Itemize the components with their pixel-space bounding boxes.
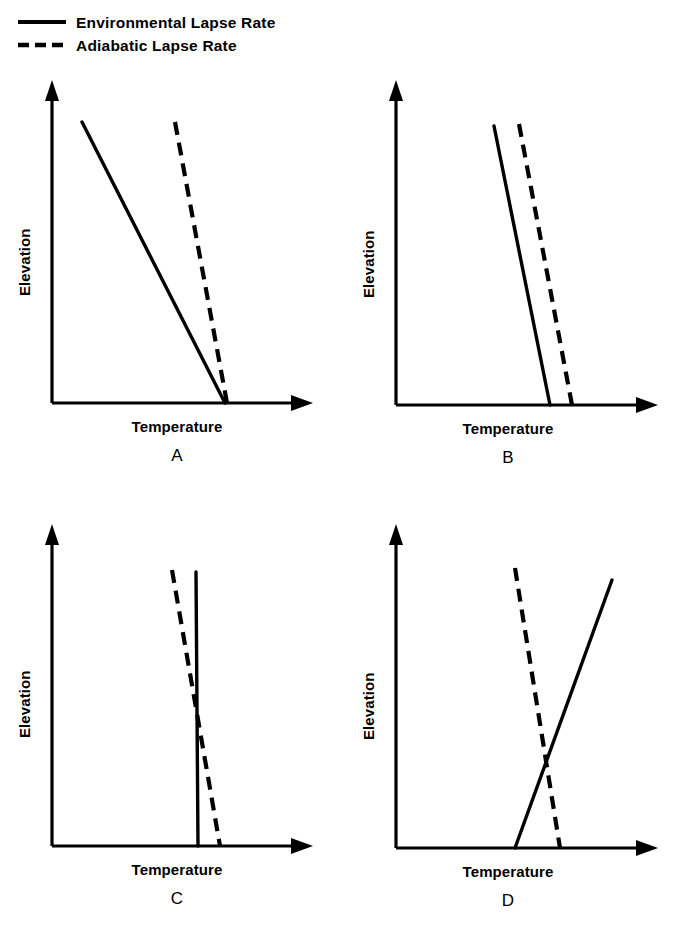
panel-c: Elevation Temperature C: [16, 524, 313, 908]
panel-a-y-axis-label: Elevation: [16, 228, 33, 296]
panel-a-x-axis-arrow-icon: [291, 395, 313, 411]
panel-d-letter: D: [502, 891, 514, 910]
panel-c-y-axis-arrow-icon: [45, 524, 59, 545]
panel-c-environmental-line: [196, 572, 198, 846]
lapse-rate-figure: Environmental Lapse Rate Adiabatic Lapse…: [0, 0, 682, 925]
panel-c-series: [172, 570, 220, 846]
legend-entry-adiabatic: Adiabatic Lapse Rate: [18, 37, 237, 54]
panel-b-letter: B: [502, 448, 513, 467]
panel-a-environmental-line: [82, 122, 225, 403]
panel-d-axes: [389, 524, 658, 856]
panel-c-letter: C: [171, 889, 183, 908]
panel-b-series: [494, 124, 572, 405]
panel-d-y-axis-arrow-icon: [389, 524, 403, 545]
panel-d-environmental-line: [515, 580, 612, 848]
panel-a-y-axis-arrow-icon: [45, 80, 59, 101]
legend: Environmental Lapse Rate Adiabatic Lapse…: [18, 14, 276, 54]
panel-b-x-axis-arrow-icon: [636, 397, 658, 413]
panel-b-environmental-line: [494, 126, 550, 405]
panel-a-series: [82, 122, 227, 403]
panel-c-x-axis-label: Temperature: [132, 861, 223, 878]
legend-entry-environmental: Environmental Lapse Rate: [18, 14, 276, 31]
panel-b-axes: [389, 80, 658, 413]
panel-a-x-axis-label: Temperature: [132, 418, 223, 435]
panel-a-letter: A: [171, 446, 183, 465]
panel-b-x-axis-label: Temperature: [463, 420, 554, 437]
panel-d-x-axis-label: Temperature: [463, 863, 554, 880]
panel-d-series: [515, 568, 612, 848]
panel-c-axes: [45, 524, 313, 854]
panel-b-y-axis-arrow-icon: [389, 80, 403, 101]
panel-c-y-axis-label: Elevation: [16, 670, 33, 738]
panel-b-y-axis-label: Elevation: [360, 230, 377, 298]
legend-label-adiabatic: Adiabatic Lapse Rate: [76, 37, 237, 54]
panel-d-adiabatic-line: [515, 568, 560, 848]
figure-canvas: Environmental Lapse Rate Adiabatic Lapse…: [0, 0, 682, 925]
panel-b-adiabatic-line: [519, 124, 572, 405]
panel-a: Elevation Temperature A: [16, 80, 313, 465]
panel-d-y-axis-label: Elevation: [360, 672, 377, 740]
legend-label-environmental: Environmental Lapse Rate: [76, 14, 276, 31]
panel-c-x-axis-arrow-icon: [291, 838, 313, 854]
panel-a-adiabatic-line: [175, 122, 227, 403]
panel-d-x-axis-arrow-icon: [636, 840, 658, 856]
panel-b: Elevation Temperature B: [360, 80, 658, 467]
panel-d: Elevation Temperature D: [360, 524, 658, 910]
